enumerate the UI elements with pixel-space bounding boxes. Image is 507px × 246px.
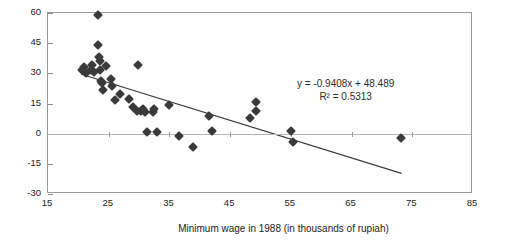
- y-axis-tick: [48, 104, 53, 105]
- y-axis-tick: [48, 73, 53, 74]
- x-axis-tick: [230, 132, 231, 137]
- y-axis-tick-label: -15: [27, 158, 41, 168]
- x-axis-tick: [169, 132, 170, 137]
- x-axis-tick-label: 35: [163, 198, 174, 208]
- y-axis-tick: [48, 164, 53, 165]
- zero-gridline: [48, 134, 471, 135]
- y-axis-tick-label: 30: [30, 67, 41, 77]
- regression-equation: y = -0.9408x + 48.489: [297, 77, 394, 90]
- x-axis-tick-label: 75: [406, 198, 417, 208]
- regression-annotation: y = -0.9408x + 48.489 R² = 0.5313: [297, 77, 394, 103]
- y-axis-tick-label: 60: [30, 7, 41, 17]
- x-axis-tick-label: 55: [285, 198, 296, 208]
- y-axis-label-group: 604530150-15-30: [0, 0, 41, 246]
- x-axis-tick: [352, 132, 353, 137]
- y-axis-tick-label: 15: [30, 98, 41, 108]
- x-axis-tick-label: 45: [224, 198, 235, 208]
- scatter-chart: 604530150-15-30 y = -0.9408x + 48.489 R²…: [0, 0, 507, 246]
- y-axis-tick-label: -30: [27, 188, 41, 198]
- x-axis-title: Minimum wage in 1988 (in thousands of ru…: [0, 223, 507, 234]
- y-axis-tick-label: 45: [30, 37, 41, 47]
- x-axis-tick: [109, 132, 110, 137]
- x-axis-tick-label: 25: [102, 198, 113, 208]
- y-axis-tick: [48, 194, 53, 195]
- x-axis-tick: [412, 132, 413, 137]
- y-axis-tick: [48, 13, 53, 14]
- x-axis-title-text: Minimum wage in 1988 (in thousands of ru…: [178, 223, 389, 234]
- plot-area: [47, 12, 472, 193]
- x-axis-tick-label: 85: [467, 198, 478, 208]
- y-axis-tick-label: 0: [36, 128, 41, 138]
- x-axis-tick-label: 65: [345, 198, 356, 208]
- x-axis-tick-label: 15: [42, 198, 53, 208]
- r-squared-value: R² = 0.5313: [297, 90, 394, 103]
- y-axis-tick: [48, 43, 53, 44]
